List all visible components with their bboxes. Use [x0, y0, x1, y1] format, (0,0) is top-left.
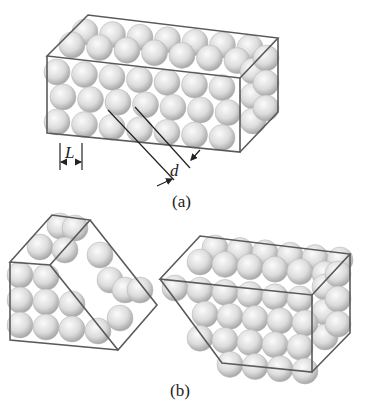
atom-sphere — [237, 254, 263, 280]
atom-sphere — [237, 330, 263, 356]
atom-sphere — [59, 316, 85, 342]
panel-b-caption: (b) — [170, 381, 190, 400]
atom-sphere — [287, 286, 313, 312]
atom-sphere — [262, 284, 288, 310]
panel-a-caption: (a) — [172, 192, 191, 211]
atom-sphere — [154, 69, 180, 95]
atom-sphere — [253, 45, 279, 71]
atom-sphere — [212, 251, 238, 277]
atom-sphere — [44, 109, 70, 135]
atom-sphere — [99, 64, 125, 90]
atom-sphere — [114, 37, 140, 63]
atom-sphere — [209, 75, 235, 101]
crystal-diagram: L d (a) (b) — [0, 0, 365, 417]
atom-sphere — [33, 264, 59, 290]
atom-sphere — [50, 84, 76, 110]
atom-sphere — [85, 318, 111, 344]
atom-sphere — [215, 100, 241, 126]
atom-sphere — [133, 92, 159, 118]
atom-sphere — [187, 249, 213, 275]
atom-sphere — [217, 303, 243, 329]
atom-sphere — [7, 287, 33, 313]
atom-sphere — [187, 325, 213, 351]
atom-sphere — [99, 114, 125, 140]
atom-sphere — [253, 95, 279, 121]
atom-sphere — [287, 259, 313, 285]
atom-sphere — [197, 45, 223, 71]
atom-sphere — [262, 256, 288, 282]
atom-sphere — [287, 334, 313, 360]
figure-b-left-prism — [7, 213, 153, 344]
atom-sphere — [59, 32, 85, 58]
atom-sphere — [262, 332, 288, 358]
atom-sphere — [292, 310, 318, 336]
figure-a-block — [44, 19, 279, 151]
atom-sphere — [7, 312, 33, 338]
spacing-label: d — [170, 161, 179, 180]
atom-sphere — [160, 94, 186, 120]
atom-sphere — [182, 72, 208, 98]
length-label: L — [64, 143, 74, 162]
atom-sphere — [187, 277, 213, 303]
atom-sphere — [142, 40, 168, 66]
atom-sphere — [107, 305, 133, 331]
atom-sphere — [242, 306, 268, 332]
atom-sphere — [127, 277, 153, 303]
atom-sphere — [267, 308, 293, 334]
atom-sphere — [72, 62, 98, 88]
atom-sphere — [78, 87, 104, 113]
atom-sphere — [127, 67, 153, 93]
atom-sphere — [209, 125, 235, 151]
atom-sphere — [182, 122, 208, 148]
atom-sphere — [192, 301, 218, 327]
atom-sphere — [325, 261, 351, 287]
atom-sphere — [44, 59, 70, 85]
atom-sphere — [325, 286, 351, 312]
atom-sphere — [72, 112, 98, 138]
atom-sphere — [253, 70, 279, 96]
atom-sphere — [212, 279, 238, 305]
atom-sphere — [169, 42, 195, 68]
atom-sphere — [33, 289, 59, 315]
atom-sphere — [127, 117, 153, 143]
atom-sphere — [87, 35, 113, 61]
figure-b-right-block — [162, 235, 353, 384]
atom-sphere — [325, 311, 351, 337]
atom-sphere — [188, 97, 214, 123]
atom-sphere — [7, 262, 33, 288]
atom-sphere — [33, 314, 59, 340]
atom-sphere — [237, 282, 263, 308]
atom-sphere — [87, 242, 113, 268]
atom-sphere — [212, 327, 238, 353]
